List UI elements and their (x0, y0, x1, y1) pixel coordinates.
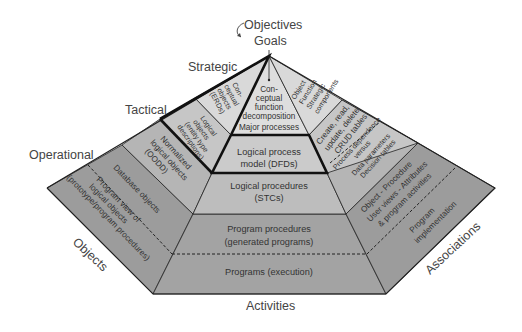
svg-text:function: function (255, 103, 284, 112)
svg-text:Logical process: Logical process (237, 147, 301, 157)
svg-text:Major processes: Major processes (239, 123, 299, 132)
svg-text:decomposition: decomposition (243, 112, 296, 121)
tactical-label: Tactical (125, 103, 167, 117)
activities-label: Activities (246, 299, 295, 313)
operational-label: Operational (29, 148, 94, 162)
svg-text:Logical procedures: Logical procedures (230, 181, 308, 191)
svg-text:Con-: Con- (260, 85, 278, 94)
svg-text:(STCs): (STCs) (254, 193, 283, 203)
svg-text:ceptual: ceptual (256, 94, 283, 103)
pyramid-diagram: Objectives Goals Strategic Tactical Oper… (0, 0, 522, 332)
strategic-label: Strategic (188, 60, 237, 74)
svg-text:model (DFDs): model (DFDs) (240, 159, 297, 169)
svg-text:(generated programs): (generated programs) (225, 237, 314, 247)
objectives-label: Objectives (244, 18, 302, 32)
center-programs-text: Programs (execution) (225, 267, 313, 277)
svg-text:Program procedures: Program procedures (227, 224, 311, 234)
goals-label: Goals (254, 34, 287, 48)
